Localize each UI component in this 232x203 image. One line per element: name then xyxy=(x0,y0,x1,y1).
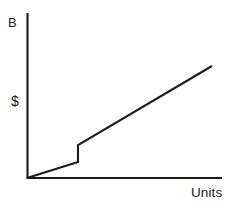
cost-line-series xyxy=(27,66,212,178)
cost-behavior-chart: B $ Units xyxy=(0,0,232,203)
y-axis-label-dollar: $ xyxy=(11,94,19,108)
x-axis-label-units: Units xyxy=(191,186,222,200)
chart-plot-area xyxy=(0,0,232,203)
chart-corner-label-b: B xyxy=(8,16,17,30)
